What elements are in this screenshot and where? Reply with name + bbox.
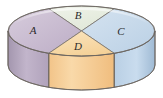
sector-label-c: C — [117, 25, 125, 37]
pie-cylinder-diagram: A B C D — [0, 0, 163, 98]
sector-label-b: B — [75, 9, 82, 21]
sector-label-d: D — [73, 40, 82, 52]
sector-d-side-wall — [49, 53, 114, 90]
sector-label-a: A — [29, 24, 37, 36]
figure-canvas: A B C D — [0, 0, 163, 98]
